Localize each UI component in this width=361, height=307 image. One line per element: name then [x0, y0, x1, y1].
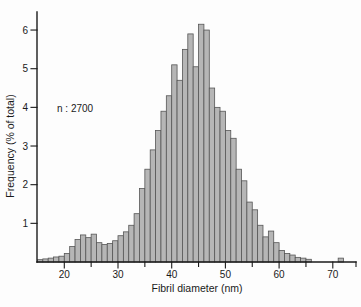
histogram-bar [177, 80, 182, 262]
figure-panel: 203040506070 123456 Frequency (% of tota… [0, 0, 361, 307]
histogram-bar [145, 169, 150, 262]
histogram-bar [215, 107, 220, 262]
y-tick-label: 6 [22, 25, 28, 36]
y-tick-label: 5 [22, 63, 28, 74]
histogram-bar [284, 253, 289, 262]
histogram-bar [252, 210, 257, 262]
histogram-bar [182, 49, 187, 262]
y-tick-labels: 123456 [22, 25, 28, 229]
histogram-bar [274, 243, 279, 262]
histogram-bar [54, 257, 59, 262]
x-tick-label: 30 [112, 269, 124, 280]
histogram-bar [161, 111, 166, 262]
histogram-bar [75, 240, 80, 262]
histogram-bar [80, 235, 85, 262]
histogram-bar [225, 131, 230, 262]
histogram-bar [139, 189, 144, 262]
y-axis-label: Frequency (% of total) [4, 94, 16, 197]
bars-group [37, 24, 343, 262]
x-tick-label: 70 [327, 269, 339, 280]
histogram-bar [188, 34, 193, 262]
histogram-bar [258, 225, 263, 262]
histogram-bar [268, 231, 273, 262]
histogram-svg: 203040506070 123456 Frequency (% of tota… [0, 0, 361, 307]
histogram-bar [263, 237, 268, 262]
histogram-bar [242, 181, 247, 262]
histogram-bar [113, 241, 118, 262]
histogram-bar [150, 150, 155, 262]
histogram-bar [290, 255, 295, 262]
histogram-bar [220, 111, 225, 262]
x-tick-label: 50 [220, 269, 232, 280]
x-tick-label: 60 [274, 269, 286, 280]
histogram-bar [134, 214, 139, 262]
x-axis-label: Fibril diameter (nm) [151, 282, 242, 294]
histogram-bar [247, 202, 252, 262]
histogram-bar [166, 96, 171, 262]
histogram-bar [86, 238, 91, 262]
x-tick-label: 20 [59, 269, 71, 280]
histogram-bar [156, 131, 161, 262]
histogram-bar [199, 24, 204, 262]
histogram-bar [97, 243, 102, 262]
x-tick-labels: 203040506070 [59, 269, 339, 280]
histogram-bar [70, 247, 75, 262]
sample-size-annotation: n : 2700 [57, 103, 94, 114]
histogram-bar [204, 30, 209, 262]
histogram-bar [193, 67, 198, 262]
histogram-bar [59, 256, 64, 262]
y-tick-label: 1 [22, 218, 28, 229]
y-tick-label: 4 [22, 102, 28, 113]
histogram-bar [64, 253, 69, 262]
x-tick-label: 40 [166, 269, 178, 280]
histogram-bar [231, 138, 236, 262]
histogram-bar [102, 245, 107, 262]
histogram-bar [172, 65, 177, 262]
histogram-bar [118, 236, 123, 262]
y-tick-label: 3 [22, 141, 28, 152]
histogram-bar [209, 88, 214, 262]
histogram-bar [236, 169, 241, 262]
histogram-bar [107, 243, 112, 262]
histogram-bar [129, 225, 134, 262]
histogram-bar [91, 234, 96, 262]
histogram-bar [123, 232, 128, 262]
y-tick-label: 2 [22, 179, 28, 190]
histogram-bar [279, 250, 284, 262]
